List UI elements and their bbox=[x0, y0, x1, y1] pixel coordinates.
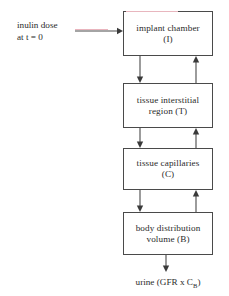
flow-diagram: inulin dose at t = 0 implant chamber (I)… bbox=[0, 0, 229, 296]
box-tissue-capillaries: tissue capillaries (C) bbox=[123, 148, 213, 190]
box-implant-chamber-line1: implant chamber bbox=[136, 23, 200, 34]
box-tissue-interstitial-region-line2: region (T) bbox=[149, 106, 188, 117]
arrow-capillaries-to-tissue bbox=[193, 128, 199, 148]
inulin-dose-line2: at t = 0 bbox=[17, 32, 43, 42]
arrow-body-to-capillaries bbox=[193, 190, 199, 212]
box-tissue-interstitial-region: tissue interstitial region (T) bbox=[123, 83, 213, 128]
box-body-distribution-volume-line2: volume (B) bbox=[146, 234, 189, 245]
arrow-capillaries-to-body bbox=[137, 190, 143, 212]
urine-output-prefix: urine (GFR x C bbox=[136, 277, 193, 287]
inulin-dose-line1: inulin dose bbox=[17, 20, 58, 30]
arrow-implant-to-tissue bbox=[137, 56, 143, 83]
arrow-body-to-urine bbox=[163, 255, 169, 272]
box-body-distribution-volume-line1: body distribution bbox=[136, 223, 201, 234]
box-implant-chamber: implant chamber (I) bbox=[123, 11, 213, 56]
arrow-inulin-dose-to-implant bbox=[75, 28, 123, 34]
urine-output-suffix: ) bbox=[197, 277, 200, 287]
arrow-tissue-to-implant bbox=[193, 56, 199, 83]
box-tissue-interstitial-region-line1: tissue interstitial bbox=[137, 95, 199, 106]
box-implant-chamber-line2: (I) bbox=[163, 34, 172, 45]
urine-output-label: urine (GFR x CB) bbox=[123, 276, 213, 288]
box-body-distribution-volume: body distribution volume (B) bbox=[123, 212, 213, 255]
arrow-tissue-to-capillaries bbox=[137, 128, 143, 148]
inulin-dose-label: inulin dose at t = 0 bbox=[17, 19, 58, 43]
box-tissue-capillaries-line1: tissue capillaries bbox=[137, 158, 200, 169]
box-tissue-capillaries-line2: (C) bbox=[162, 169, 175, 180]
